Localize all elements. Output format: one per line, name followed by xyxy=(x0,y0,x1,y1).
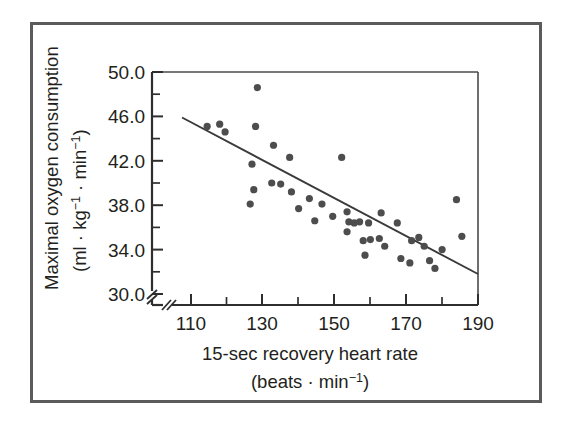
data-point xyxy=(453,196,460,203)
data-point xyxy=(247,200,254,207)
data-point xyxy=(439,246,446,253)
y-tick-labels: 50.0 46.0 42.0 38.0 34.0 30.0 xyxy=(108,62,145,305)
x-major-ticks xyxy=(191,294,478,305)
data-point xyxy=(367,236,374,243)
x-tick-label: 130 xyxy=(246,313,278,334)
data-point xyxy=(295,205,302,212)
data-point xyxy=(311,217,318,224)
x-axis-title: 15-sec recovery heart rate (beats · min−… xyxy=(202,343,418,392)
data-point xyxy=(248,161,255,168)
regression-line xyxy=(182,118,478,275)
y-axis-title: Maximal oxygen consumption (ml · kg−1 · … xyxy=(41,46,90,290)
y-axis xyxy=(147,72,157,305)
y-tick-label: 34.0 xyxy=(108,240,145,261)
data-point xyxy=(306,195,313,202)
x-tick-label: 190 xyxy=(462,313,494,334)
y-axis-title-line1: Maximal oxygen consumption xyxy=(41,46,62,290)
y-title-close: ) xyxy=(69,129,90,135)
data-point xyxy=(270,142,277,149)
y-title-min: min xyxy=(69,150,90,180)
x-title-close: ) xyxy=(363,371,369,392)
data-point xyxy=(360,237,367,244)
data-point xyxy=(343,208,350,215)
data-point xyxy=(318,200,325,207)
data-point xyxy=(268,179,275,186)
data-point xyxy=(216,121,223,128)
y-title-ml: (ml xyxy=(69,246,90,272)
data-point xyxy=(221,128,228,135)
data-point xyxy=(415,234,422,241)
data-point xyxy=(376,235,383,242)
data-point xyxy=(356,218,363,225)
data-point xyxy=(254,84,261,91)
data-points xyxy=(204,84,466,272)
y-tick-label: 38.0 xyxy=(108,195,145,216)
y-title-kg-exponent: −1 xyxy=(69,196,83,210)
data-point xyxy=(343,228,350,235)
data-point xyxy=(408,237,415,244)
data-point xyxy=(431,265,438,272)
x-tick-label: 110 xyxy=(176,313,206,334)
data-point xyxy=(406,259,413,266)
x-title-min: min xyxy=(319,371,349,392)
y-tick-label: 46.0 xyxy=(108,106,145,127)
x-tick-label: 150 xyxy=(318,313,350,334)
data-point xyxy=(394,219,401,226)
data-point xyxy=(426,257,433,264)
data-point xyxy=(397,255,404,262)
y-tick-label: 42.0 xyxy=(108,151,145,172)
scatter-plot: 50.0 46.0 42.0 38.0 34.0 30.0 110 130 15… xyxy=(0,0,572,428)
figure-root: 50.0 46.0 42.0 38.0 34.0 30.0 110 130 15… xyxy=(0,0,572,428)
x-tick-labels: 110 130 150 170 190 xyxy=(176,313,494,334)
data-point xyxy=(381,243,388,250)
x-tick-label: 170 xyxy=(390,313,422,334)
x-title-beats: (beats xyxy=(251,371,302,392)
x-axis-title-line1: 15-sec recovery heart rate xyxy=(202,343,418,364)
data-point xyxy=(365,219,372,226)
y-minor-ticks xyxy=(152,94,160,272)
data-point xyxy=(204,123,211,130)
y-axis-title-line2: (ml · kg−1 · min−1) xyxy=(69,129,90,272)
data-point xyxy=(277,181,284,188)
data-point xyxy=(288,188,295,195)
x-axis-title-line2: (beats · min−1) xyxy=(251,371,369,392)
data-point xyxy=(361,252,368,259)
regression-line-segment xyxy=(182,118,478,275)
data-point xyxy=(378,209,385,216)
x-title-min-exponent: −1 xyxy=(349,371,363,385)
data-point xyxy=(421,243,428,250)
y-title-min-exponent: −1 xyxy=(69,135,83,149)
x-axis xyxy=(152,300,478,310)
data-point xyxy=(252,123,259,130)
y-tick-label: 50.0 xyxy=(108,62,145,83)
y-title-kg: kg xyxy=(69,210,90,230)
data-point xyxy=(250,186,257,193)
data-point xyxy=(338,154,345,161)
y-tick-label: 30.0 xyxy=(108,284,145,305)
data-point xyxy=(329,213,336,220)
data-point xyxy=(286,154,293,161)
data-point xyxy=(458,233,465,240)
